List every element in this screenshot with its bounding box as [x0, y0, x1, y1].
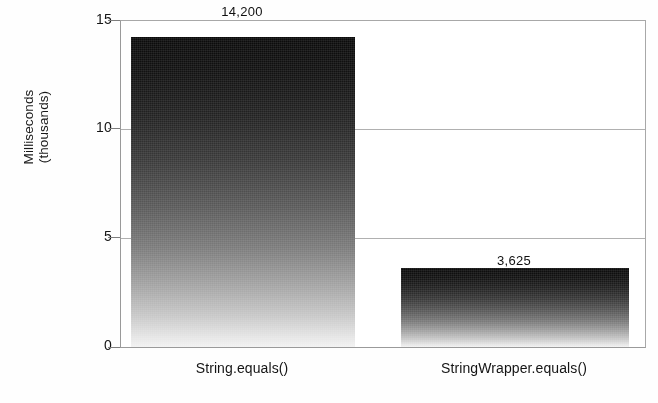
y-axis-tick-labels: 15 10 5 0 [64, 0, 112, 403]
y-tick-label-0: 0 [68, 337, 112, 353]
y-axis-title: Milliseconds (thousands) [21, 47, 51, 207]
y-tick-label-10: 10 [68, 119, 112, 135]
bar-stringwrapper-equals[interactable] [401, 268, 629, 347]
y-tick-label-15: 15 [68, 11, 112, 27]
x-axis-label-stringwrapper-equals: StringWrapper.equals() [400, 360, 628, 376]
x-axis-label-string-equals: String.equals() [130, 360, 354, 376]
y-tickmark-10 [108, 128, 120, 129]
y-tickmark-5 [108, 237, 120, 238]
y-tick-label-5: 5 [68, 228, 112, 244]
y-tickmark-0 [108, 347, 120, 348]
bar-chart-figure: Milliseconds (thousands) 15 10 5 0 14,20… [0, 0, 658, 403]
bar-value-label-string-equals: 14,200 [130, 4, 354, 19]
bar-value-label-stringwrapper-equals: 3,625 [400, 253, 628, 268]
plot-area [120, 20, 646, 348]
bar-string-equals[interactable] [131, 37, 355, 347]
y-tickmark-15 [108, 20, 120, 21]
